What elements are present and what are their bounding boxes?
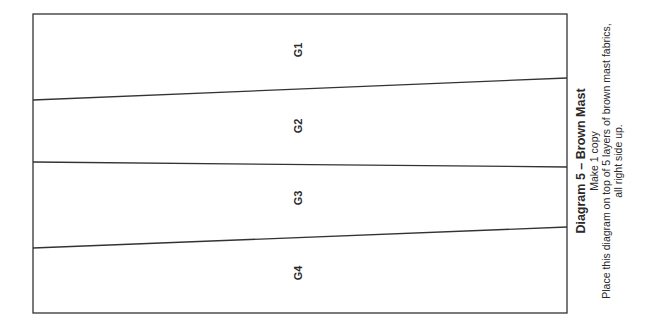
- caption-title: Diagram 5 – Brown Mast: [574, 23, 588, 298]
- diagram-canvas: G1 G2 G3 G4: [0, 0, 664, 323]
- caption-instruction: Place this diagram on top of 5 layers of…: [600, 23, 612, 298]
- divider-line-3: [33, 227, 567, 248]
- section-label-g4: G4: [292, 265, 304, 281]
- divider-line-1: [33, 78, 567, 100]
- section-label-g2: G2: [292, 119, 304, 134]
- section-label-g3: G3: [292, 191, 304, 206]
- caption-copies: Make 1 copy: [588, 23, 600, 298]
- section-label-g1: G1: [292, 43, 304, 58]
- divider-line-2: [33, 162, 567, 167]
- caption-instruction-cont: all right side up.: [612, 23, 624, 298]
